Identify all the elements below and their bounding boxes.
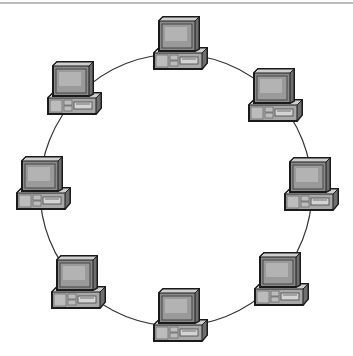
computer-node-right	[283, 156, 339, 212]
desktop-computer-icon	[50, 254, 106, 310]
desktop-computer-icon	[283, 156, 339, 212]
desktop-computer-icon	[46, 60, 102, 116]
computer-node-lower-left	[50, 254, 106, 310]
desktop-computer-icon	[152, 15, 208, 71]
computer-node-lower-right	[253, 251, 309, 307]
desktop-computer-icon	[253, 251, 309, 307]
desktop-computer-icon	[247, 67, 303, 123]
desktop-computer-icon	[15, 155, 71, 211]
computer-node-upper-right	[247, 67, 303, 123]
desktop-computer-icon	[152, 287, 208, 343]
computer-node-left	[15, 155, 71, 211]
computer-node-top	[152, 15, 208, 71]
computer-node-upper-left	[46, 60, 102, 116]
computer-node-bottom	[152, 287, 208, 343]
